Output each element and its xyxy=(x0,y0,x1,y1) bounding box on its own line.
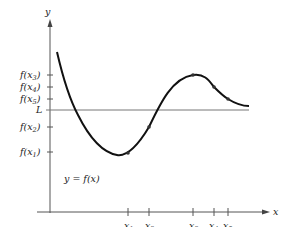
y-tick-label-fx2: f(x2) xyxy=(19,121,41,134)
function-label: y = f(x) xyxy=(63,173,100,184)
y-tick-label-fx1: f(x1) xyxy=(19,146,41,159)
x-axis-arrow-icon xyxy=(262,210,270,215)
x-tick-label-x1: x1 xyxy=(124,220,134,227)
x-tick-label-x3: x3 xyxy=(189,220,199,227)
x-tick-label-x4: x4 xyxy=(209,220,219,227)
x-tick-label-x2: x2 xyxy=(145,220,155,227)
curve-point-x4 xyxy=(212,85,216,89)
y-axis-label: y xyxy=(44,6,51,17)
y-axis-arrow-icon xyxy=(48,19,53,27)
curve-point-x1 xyxy=(126,151,130,155)
curve-point-x2 xyxy=(147,125,151,129)
x-tick-label-x5: x5 xyxy=(223,220,233,227)
curve-point-x3 xyxy=(191,73,195,77)
function-graph: y x L f(x3) f(x4) f(x5) f(x2) f(x1) x1 x… xyxy=(0,0,284,227)
curve-point-x5 xyxy=(226,97,230,101)
function-curve xyxy=(57,52,249,155)
x-axis-label: x xyxy=(273,206,279,217)
